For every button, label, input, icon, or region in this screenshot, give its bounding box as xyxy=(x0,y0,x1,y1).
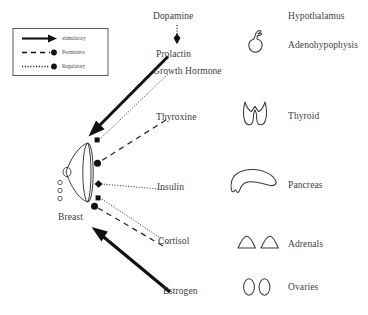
organ-label-adrenals: Adrenals xyxy=(288,240,323,250)
edge-dopamine-prolactin xyxy=(174,25,181,44)
legend-swatch-regulatory xyxy=(22,64,57,70)
organ-label-pancreas: Pancreas xyxy=(288,181,323,191)
organ-label-adenohypophysis: Adenohypophysis xyxy=(288,41,358,51)
organ-label-thyroid: Thyroid xyxy=(288,112,319,122)
edge-growthhormone-breast xyxy=(95,74,168,142)
legend-swatch-permissive xyxy=(22,50,57,56)
organ-label-ovaries: Ovaries xyxy=(288,283,318,293)
edge-insulin-breast xyxy=(95,180,165,189)
hormone-label-insulin: Insulin xyxy=(157,183,184,193)
adrenals-icon xyxy=(238,236,278,248)
pancreas-icon xyxy=(231,169,276,192)
ovaries-icon xyxy=(244,279,270,295)
target-label-breast: Breast xyxy=(58,213,83,223)
pituitary-icon xyxy=(249,31,262,53)
legend-label-regulatory: Regulatory xyxy=(62,64,85,69)
legend xyxy=(13,29,108,76)
organ-label-hypothalamus: Hypothalamus xyxy=(288,12,345,22)
legend-swatch-stimulatory xyxy=(22,35,57,43)
edge-thyroxine-breast xyxy=(94,120,166,167)
legend-label-permissive: Permissive xyxy=(62,50,85,55)
hormone-label-growth-hormone: Growth Hormone xyxy=(153,67,222,77)
hormone-label-cortisol: Cortisol xyxy=(158,237,189,247)
legend-label-stimulatory: stimulatory xyxy=(62,36,86,41)
thyroid-icon xyxy=(244,102,267,125)
legend-border xyxy=(13,29,108,76)
hormone-label-prolactin: Prolactin xyxy=(156,50,191,60)
hormone-label-dopamine: Dopamine xyxy=(153,12,193,22)
hormone-label-estrogen: Estrogen xyxy=(163,287,198,297)
endocrine-breast-diagram: stimulatory Permissive Regulatory Dopami… xyxy=(0,0,368,315)
breast-cone-icon xyxy=(58,143,93,202)
hormone-label-thyroxine: Thyroxine xyxy=(156,113,196,123)
